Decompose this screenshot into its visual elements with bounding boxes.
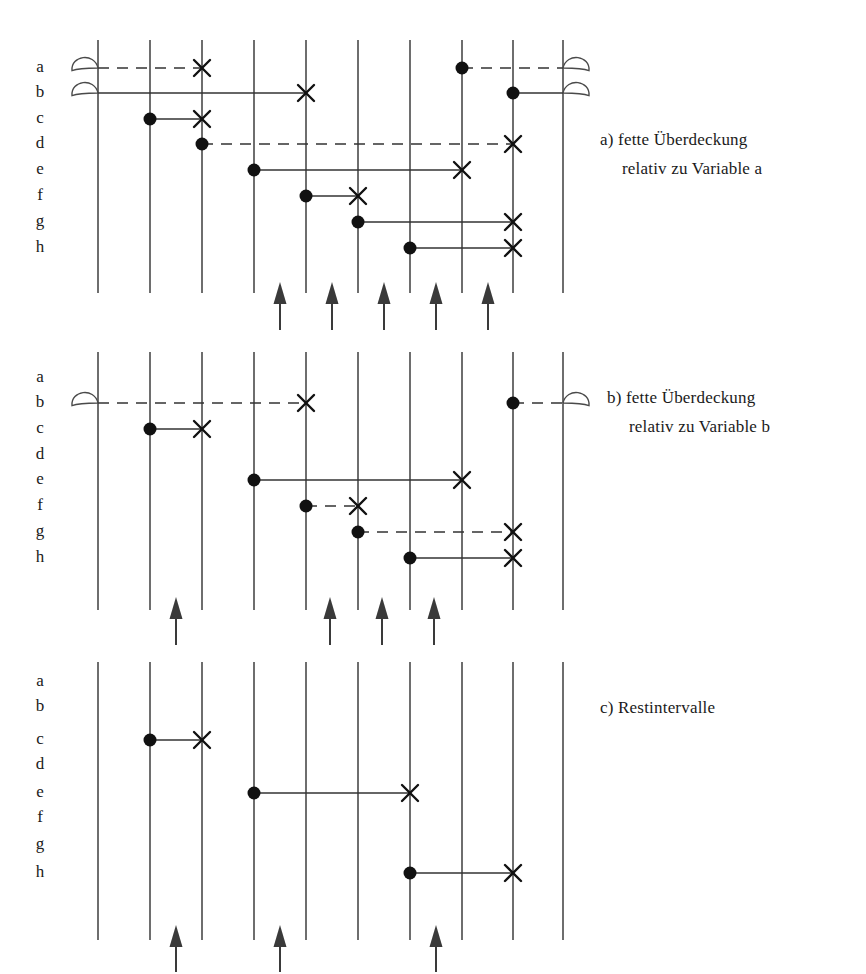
- interval-start-dot: [248, 474, 261, 487]
- interval-start-lens: [72, 57, 98, 70]
- interval-end-lens: [563, 57, 589, 70]
- interval-b-4: [507, 82, 590, 99]
- row-label-g: g: [31, 834, 49, 854]
- interval-start-dot: [404, 867, 417, 880]
- interval-start-lens: [72, 82, 98, 95]
- row-label-d: d: [31, 754, 49, 774]
- panel-b: [72, 352, 589, 645]
- interval-start-dot: [404, 552, 417, 565]
- arrow-head: [376, 597, 389, 619]
- row-label-b: b: [31, 82, 49, 102]
- interval-start-dot: [300, 190, 313, 203]
- row-label-a: a: [31, 57, 49, 77]
- row-label-g: g: [31, 211, 49, 231]
- interval-start-dot: [248, 787, 261, 800]
- up-arrow-3: [430, 925, 443, 972]
- row-label-d: d: [31, 444, 49, 464]
- row-label-c: c: [31, 729, 49, 749]
- panel-c: [98, 662, 563, 972]
- interval-a-1: [72, 57, 210, 76]
- interval-b-2: [507, 392, 590, 409]
- interval-end-lens: [563, 392, 589, 405]
- row-label-e: e: [31, 159, 49, 179]
- interval-g-9: [352, 214, 522, 230]
- interval-start-dot: [456, 62, 469, 75]
- interval-end-lens: [563, 82, 589, 95]
- arrow-head: [274, 282, 287, 304]
- arrow-head: [324, 597, 337, 619]
- interval-b-3: [72, 82, 314, 101]
- up-arrow-1: [170, 597, 183, 645]
- interval-start-dot: [507, 87, 520, 100]
- interval-a-2: [456, 57, 590, 74]
- row-label-f: f: [31, 807, 49, 827]
- interval-start-dot: [144, 734, 157, 747]
- row-label-g: g: [31, 521, 49, 541]
- interval-start-dot: [196, 138, 209, 151]
- row-label-e: e: [31, 469, 49, 489]
- arrow-head: [274, 925, 287, 947]
- row-label-d: d: [31, 133, 49, 153]
- row-label-c: c: [31, 108, 49, 128]
- arrow-head: [170, 597, 183, 619]
- row-label-e: e: [31, 782, 49, 802]
- interval-start-dot: [144, 113, 157, 126]
- caption-panel-b: b) fette Überdeckungrelativ zu Variable …: [607, 388, 770, 437]
- row-label-b: b: [31, 392, 49, 412]
- caption-line-2: relativ zu Variable b: [607, 417, 770, 437]
- interval-start-dot: [300, 500, 313, 513]
- up-arrow-4: [430, 282, 443, 330]
- interval-start-dot: [404, 242, 417, 255]
- up-arrow-3: [378, 282, 391, 330]
- interval-b-1: [72, 392, 314, 411]
- arrow-head: [428, 597, 441, 619]
- up-arrow-5: [482, 282, 495, 330]
- arrow-head: [430, 282, 443, 304]
- caption-line-1: c) Restintervalle: [600, 698, 715, 717]
- interval-start-dot: [144, 423, 157, 436]
- interval-f-8: [300, 188, 367, 204]
- row-label-f: f: [31, 185, 49, 205]
- up-arrow-2: [326, 282, 339, 330]
- arrow-head: [170, 925, 183, 947]
- interval-c-1: [144, 732, 211, 748]
- panel-a: [72, 40, 589, 330]
- row-label-h: h: [31, 862, 49, 882]
- row-label-b: b: [31, 696, 49, 716]
- figure-canvas: abcdefgha) fette Überdeckungrelativ zu V…: [0, 0, 866, 974]
- row-label-a: a: [31, 367, 49, 387]
- arrow-head: [378, 282, 391, 304]
- up-arrow-3: [376, 597, 389, 645]
- row-label-f: f: [31, 495, 49, 515]
- up-arrow-2: [324, 597, 337, 645]
- row-label-h: h: [31, 547, 49, 567]
- interval-g-6: [352, 524, 522, 540]
- up-arrow-1: [170, 925, 183, 972]
- caption-line-1: b) fette Überdeckung: [607, 388, 755, 407]
- row-label-a: a: [31, 671, 49, 691]
- interval-c-5: [144, 111, 211, 127]
- interval-start-dot: [507, 397, 520, 410]
- caption-panel-a: a) fette Überdeckungrelativ zu Variable …: [600, 130, 762, 179]
- arrow-head: [430, 925, 443, 947]
- interval-start-lens: [72, 392, 98, 405]
- row-label-h: h: [31, 237, 49, 257]
- caption-panel-c: c) Restintervalle: [600, 698, 715, 718]
- up-arrow-1: [274, 282, 287, 330]
- interval-c-3: [144, 421, 211, 437]
- row-label-c: c: [31, 418, 49, 438]
- interval-e-2: [248, 785, 419, 801]
- interval-f-5: [300, 498, 367, 514]
- interval-start-dot: [352, 216, 365, 229]
- up-arrow-2: [274, 925, 287, 972]
- caption-line-1: a) fette Überdeckung: [600, 130, 747, 149]
- interval-start-dot: [352, 526, 365, 539]
- interval-start-dot: [248, 164, 261, 177]
- arrow-head: [482, 282, 495, 304]
- arrow-head: [326, 282, 339, 304]
- caption-line-2: relativ zu Variable a: [600, 159, 762, 179]
- up-arrow-4: [428, 597, 441, 645]
